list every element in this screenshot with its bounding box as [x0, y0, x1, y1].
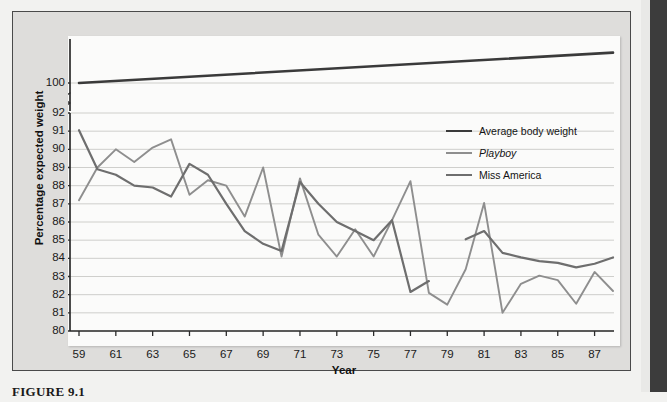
figure-caption: FIGURE 9.1	[12, 384, 85, 400]
x-tick-label: 61	[101, 348, 131, 360]
figure-frame: 80818283848586878889909192100 Percentage…	[12, 11, 631, 371]
legend-line-swatch	[446, 152, 472, 154]
x-axis-tick-labels: 596163656769717375777981838587	[68, 348, 620, 364]
x-tick-label: 85	[543, 348, 573, 360]
legend-label: Playboy	[479, 147, 516, 159]
chart-svg	[68, 36, 620, 346]
x-tick-label: 87	[580, 348, 610, 360]
legend-line-swatch	[446, 130, 472, 132]
legend-item: Miss America	[446, 166, 646, 184]
plot-area	[68, 36, 620, 346]
x-tick-label: 63	[138, 348, 168, 360]
legend-item: Playboy	[446, 144, 646, 162]
x-tick-label: 73	[322, 348, 352, 360]
y-tick-label: 80	[35, 325, 65, 337]
chart-legend: Average body weightPlayboyMiss America	[446, 122, 646, 188]
x-tick-label: 77	[395, 348, 425, 360]
x-axis-title: Year	[68, 364, 620, 376]
page-margin-gap	[641, 0, 650, 392]
x-tick-label: 81	[469, 348, 499, 360]
x-tick-label: 79	[432, 348, 462, 360]
x-tick-label: 65	[174, 348, 204, 360]
page-edge-bar	[650, 0, 667, 392]
legend-item: Average body weight	[446, 122, 646, 140]
plot-panel: Average body weightPlayboyMiss America	[68, 36, 620, 346]
legend-line-swatch	[446, 174, 472, 176]
legend-label: Miss America	[479, 169, 541, 181]
x-tick-label: 67	[211, 348, 241, 360]
y-tick-label: 82	[35, 289, 65, 301]
y-axis-title: Percentage expected weight	[33, 68, 45, 268]
x-tick-label: 71	[285, 348, 315, 360]
y-tick-label: 81	[35, 307, 65, 319]
legend-label: Average body weight	[479, 125, 577, 137]
x-tick-label: 75	[359, 348, 389, 360]
x-tick-label: 83	[506, 348, 536, 360]
x-tick-label: 69	[248, 348, 278, 360]
x-tick-label: 59	[64, 348, 94, 360]
y-tick-label: 83	[35, 271, 65, 283]
